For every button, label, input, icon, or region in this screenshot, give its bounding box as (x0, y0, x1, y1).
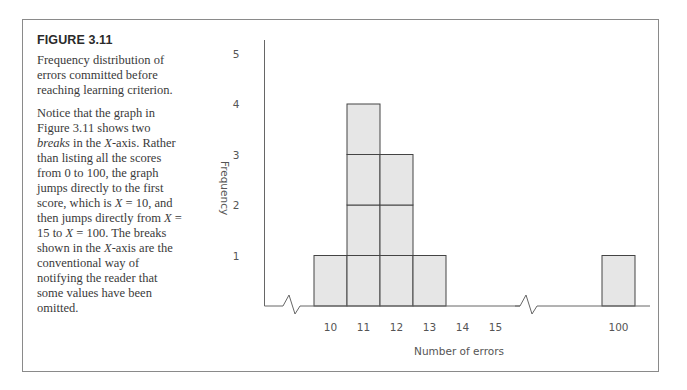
x-axis-label: Number of errors (414, 345, 504, 357)
bar-block-11 (347, 104, 380, 155)
y-tick-label: 1 (233, 250, 240, 262)
bar-block-100 (602, 256, 635, 307)
x-tick-label: 12 (390, 321, 403, 333)
bar-block-12 (380, 155, 413, 206)
x-tick-labels: 101112131415100 (324, 321, 629, 333)
x-tick-label: 15 (489, 321, 502, 333)
y-tick-label: 3 (233, 149, 240, 161)
histogram-bars (314, 104, 635, 306)
bar-block-13 (413, 256, 446, 307)
x-tick-label: 10 (324, 321, 337, 333)
bar-block-11 (347, 256, 380, 307)
bar-block-12 (380, 205, 413, 256)
x-tick-label: 13 (423, 321, 436, 333)
bar-block-11 (347, 155, 380, 206)
y-tick-labels: 12345 (233, 48, 240, 262)
bar-block-10 (314, 256, 347, 307)
y-axis-label: Frequency (219, 161, 231, 215)
x-tick-label: 14 (456, 321, 470, 333)
x-tick-label: 100 (608, 321, 628, 333)
y-tick-label: 2 (233, 199, 240, 211)
histogram-chart: 12345 101112131415100 Frequency Number o… (0, 0, 687, 390)
y-tick-label: 5 (233, 48, 240, 60)
bar-block-12 (380, 256, 413, 307)
x-tick-label: 11 (357, 321, 370, 333)
y-tick-label: 4 (233, 98, 240, 110)
bar-block-11 (347, 205, 380, 256)
